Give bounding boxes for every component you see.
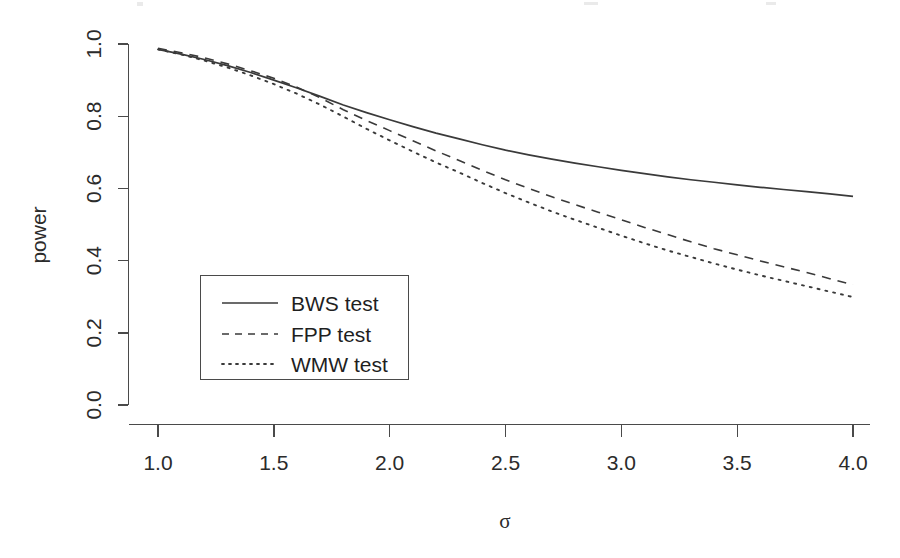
y-tick-label: 0.8 — [82, 102, 105, 131]
x-tick-label: 1.5 — [259, 451, 288, 474]
legend: BWS test FPP test WMW test — [201, 276, 409, 380]
legend-label-wmw: WMW test — [291, 353, 388, 376]
y-tick-label: 1.0 — [82, 29, 105, 58]
series-bws-test — [158, 49, 853, 196]
y-tick-label: 0.4 — [82, 246, 105, 276]
series-fpp-test — [158, 48, 853, 284]
y-tick-labels: 1.0 0.8 0.6 0.4 0.2 0.0 — [82, 29, 105, 419]
legend-label-bws: BWS test — [291, 292, 379, 315]
legend-label-fpp: FPP test — [291, 323, 371, 346]
series-wmw-test — [158, 49, 853, 297]
power-curves-plot: 1.0 0.8 0.6 0.4 0.2 0.0 1.0 1.5 2.0 2.5 … — [0, 0, 900, 558]
x-tick-labels: 1.0 1.5 2.0 2.5 3.0 3.5 4.0 — [143, 451, 867, 474]
y-tick-label: 0.0 — [82, 390, 105, 419]
chart-page: 1.0 0.8 0.6 0.4 0.2 0.0 1.0 1.5 2.0 2.5 … — [0, 0, 900, 558]
x-tick-label: 4.0 — [838, 451, 867, 474]
x-tick-label: 3.5 — [723, 451, 752, 474]
x-tick-label: 3.0 — [607, 451, 636, 474]
x-tick-marks — [158, 425, 853, 437]
x-tick-label: 2.0 — [375, 451, 404, 474]
y-tick-label: 0.2 — [82, 318, 105, 347]
series-group — [158, 48, 853, 297]
y-axis-title: power — [27, 206, 50, 263]
y-tick-label: 0.6 — [82, 174, 105, 203]
y-tick-marks — [118, 44, 128, 405]
x-axis-title: σ — [499, 509, 510, 533]
x-tick-label: 1.0 — [143, 451, 172, 474]
x-tick-label: 2.5 — [491, 451, 520, 474]
